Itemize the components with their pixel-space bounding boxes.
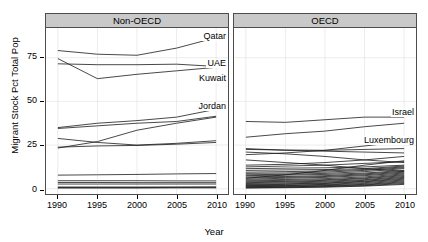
x-tick-label-right-2010: 2010 [385, 200, 425, 210]
y-tick-label-50: 50 [13, 95, 37, 105]
plot-area-oecd [234, 28, 416, 194]
series-label-israel: Israel [391, 108, 415, 117]
x-tick-label-right-1990: 1990 [225, 200, 265, 210]
x-tick-label-left-2000: 2000 [117, 200, 157, 210]
x-tick-mark-right-1995 [285, 195, 286, 199]
x-tick-mark-right-2010 [405, 195, 406, 199]
y-tick-label-25: 25 [13, 139, 37, 149]
series-label-uae: UAE [206, 59, 227, 68]
x-tick-mark-left-1990 [57, 195, 58, 199]
x-axis-title: Year [0, 226, 428, 237]
x-tick-label-right-2005: 2005 [345, 200, 385, 210]
series-label-jordan: Jordan [197, 102, 227, 111]
x-tick-label-left-1990: 1990 [37, 200, 77, 210]
y-tick-label-75: 75 [13, 51, 37, 61]
x-tick-mark-left-2000 [137, 195, 138, 199]
y-tick-mark-0 [40, 190, 44, 191]
panel-strip-oecd: OECD [234, 14, 416, 28]
y-tick-mark-75 [40, 57, 44, 58]
y-tick-mark-25 [40, 145, 44, 146]
x-tick-label-left-1995: 1995 [77, 200, 117, 210]
series-svg-oecd [234, 28, 416, 194]
y-tick-label-0: 0 [13, 184, 37, 194]
panel-oecd: OECD [233, 13, 417, 195]
x-tick-label-left-2005: 2005 [157, 200, 197, 210]
x-tick-mark-right-2005 [365, 195, 366, 199]
x-tick-label-right-2000: 2000 [305, 200, 345, 210]
x-tick-mark-left-1995 [97, 195, 98, 199]
series-label-kuwait: Kuwait [198, 74, 227, 83]
series-label-luxembourg: Luxembourg [363, 136, 415, 145]
x-tick-mark-left-2010 [217, 195, 218, 199]
migrant-stock-chart: Migrant Stock Pct Total Pop Year 0255075… [0, 0, 428, 242]
series-svg-non-oecd [46, 28, 228, 194]
y-tick-mark-50 [40, 101, 44, 102]
panel-title-non-oecd: Non-OECD [113, 16, 161, 26]
series-label-qatar: Qatar [202, 32, 227, 41]
panel-strip-non-oecd: Non-OECD [46, 14, 228, 28]
x-tick-mark-right-1990 [245, 195, 246, 199]
x-tick-mark-right-2000 [325, 195, 326, 199]
panel-title-oecd: OECD [311, 16, 338, 26]
plot-area-non-oecd [46, 28, 228, 194]
x-tick-mark-left-2005 [177, 195, 178, 199]
x-tick-label-right-1995: 1995 [265, 200, 305, 210]
